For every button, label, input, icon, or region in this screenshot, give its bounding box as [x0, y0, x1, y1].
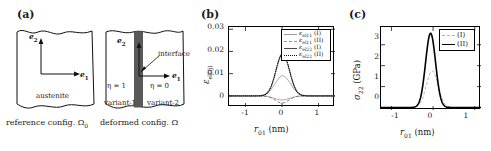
reference-config-caption: reference config. Ω0	[6, 118, 88, 129]
legend-label: εel22 (II)	[299, 50, 323, 60]
panel-b: (b) 0.03 0.02 0.01 0 -1 0 1 r01 (nm) εel…	[196, 0, 343, 151]
xtick-b-0: -1	[234, 108, 256, 117]
reference-e1-label: e1	[80, 70, 89, 81]
eta-right-label: η = 0	[150, 82, 169, 90]
xaxis-title-c: r01 (nm)	[400, 127, 435, 139]
legend-c: (I) (II)	[439, 29, 475, 51]
variant-2-label: variant-2	[147, 99, 179, 107]
interface-label: interface	[158, 50, 190, 58]
legend-label: (II)	[457, 40, 468, 49]
deformed-config-caption: deformed config. Ω	[100, 118, 178, 127]
panel-c-label: (c)	[349, 8, 366, 21]
reference-e2-label: e2	[29, 32, 38, 43]
xtick-c-1: 0	[419, 111, 441, 120]
variant-1-label: variant-1	[104, 99, 136, 107]
yaxis-title-b: εel(ij)	[201, 66, 213, 85]
panel-b-label: (b)	[201, 8, 219, 21]
ytick-b-3: 0.03	[198, 22, 224, 31]
legend-item-c-0: (I)	[442, 31, 472, 40]
yaxis-title-c: σ22 (GPa)	[352, 60, 364, 100]
eta-left-label: η = 1	[107, 82, 126, 90]
legend-b: εel11 (I) εel11 (II) εel22 (I) εel22 (II…	[281, 29, 331, 61]
xtick-c-2: 1	[455, 111, 477, 120]
deformed-e2-label: e2	[117, 36, 126, 47]
legend-label: (I)	[457, 31, 465, 40]
deformed-e1-label: e1	[172, 71, 181, 82]
panel-a: (a) e2 e1 austenite reference config. Ω0	[0, 0, 196, 151]
xaxis-title-b: r01 (nm)	[254, 124, 289, 136]
ytick-c-3: 3	[353, 32, 379, 41]
figure-root: (a) e2 e1 austenite reference config. Ω0	[0, 0, 491, 151]
panel-a-label: (a)	[17, 8, 35, 21]
ytick-b-2: 0.02	[198, 45, 224, 54]
legend-item-c-1: (II)	[442, 40, 472, 49]
xtick-b-2: 1	[306, 108, 328, 117]
xtick-c-0: -1	[384, 111, 406, 120]
legend-item-b-3: εel22 (II)	[284, 52, 328, 59]
xtick-b-1: 0	[270, 108, 292, 117]
austenite-label: austenite	[36, 92, 69, 100]
panel-c: (c) 3 2 1 0 -1 0 1 r01 (nm) σ22 (GPa) (I…	[343, 0, 491, 151]
ytick-b-0: 0	[198, 91, 224, 100]
